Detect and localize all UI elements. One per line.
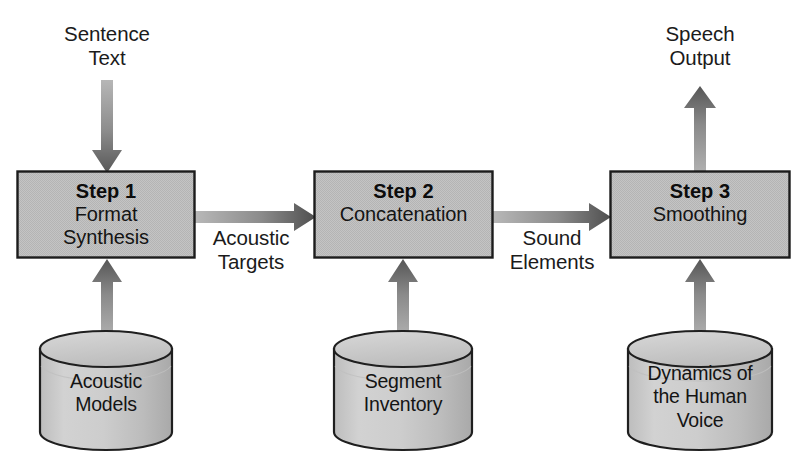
input-label-sentence-text: Sentence Text: [27, 22, 187, 70]
datastore-label-dynamics-human-voice: Dynamics of the Human Voice: [628, 362, 772, 432]
arrow-acoustic-models-to-step1: [92, 259, 122, 338]
process-box-step-2-text: Step 2 Concatenation: [314, 180, 493, 226]
process-box-step-2-title: Step 2: [314, 180, 493, 203]
datastore-label-segment-inventory: Segment Inventory: [334, 370, 472, 417]
flow-diagram-canvas: Sentence Text Speech Output Step 1 Forma…: [0, 0, 799, 466]
datastore-label-acoustic-models: Acoustic Models: [40, 370, 172, 417]
arrow-dynamics-voice-to-step3: [685, 259, 715, 338]
process-box-step-3-subtitle: Smoothing: [610, 203, 790, 226]
arrow-sentence-text-to-step1: [92, 80, 122, 173]
process-box-step-1-title: Step 1: [17, 180, 195, 203]
process-box-step-2-subtitle: Concatenation: [314, 203, 493, 226]
arrow-step3-to-speech-output: [684, 86, 716, 172]
edge-label-acoustic-targets: Acoustic Targets: [186, 226, 316, 274]
process-box-step-1-subtitle: Format Synthesis: [17, 203, 195, 249]
process-box-step-3-text: Step 3 Smoothing: [610, 180, 790, 226]
arrow-segment-inventory-to-step2: [388, 259, 418, 338]
process-box-step-1-text: Step 1 Format Synthesis: [17, 180, 195, 250]
output-label-speech-output: Speech Output: [620, 22, 780, 70]
edge-label-sound-elements: Sound Elements: [487, 226, 617, 274]
process-box-step-3-title: Step 3: [610, 180, 790, 203]
